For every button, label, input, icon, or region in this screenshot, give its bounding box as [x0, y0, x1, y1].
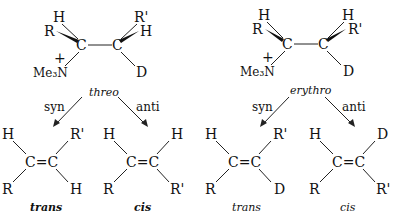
bond: [216, 141, 229, 154]
top-left-atom: H: [2, 126, 14, 142]
bond: [363, 169, 375, 182]
c2-bottom-atom: D: [343, 63, 354, 79]
syn-label: syn: [252, 100, 273, 114]
threo-panel: H R C C R' H + Me₃N D threo syn anti H R…: [2, 9, 184, 214]
c2-wedge-bond: [326, 29, 346, 42]
top-right-atom: R': [273, 126, 287, 142]
syn-arrowhead: [260, 119, 267, 127]
product-name: trans: [30, 201, 62, 214]
bond: [13, 169, 26, 182]
double-bond-label: C=C: [126, 154, 159, 170]
c1-wedge-atom: R: [252, 21, 263, 37]
amine-label: Me₃N: [240, 65, 275, 79]
c2-d-bond: [327, 51, 341, 65]
syn-label: syn: [44, 100, 65, 114]
bond: [320, 169, 333, 182]
c1-wedge-atom: R: [44, 23, 55, 39]
product-name: trans: [232, 201, 261, 214]
amine-label: Me₃N: [33, 66, 68, 80]
elimination-diagram: H R C C R' H + Me₃N D threo syn anti H R…: [0, 0, 393, 215]
double-bond-label: C=C: [228, 154, 261, 170]
charge-plus: +: [262, 49, 274, 65]
erythro-trans-product: H R' R D C=C trans: [205, 126, 287, 214]
anti-label: anti: [342, 100, 366, 114]
c1-top-atom: H: [53, 9, 65, 25]
erythro-panel: H R C C H R' + Me₃N D erythro syn anti H…: [205, 7, 390, 214]
c2-d-bond: [121, 52, 135, 66]
bond: [56, 141, 68, 154]
threo-trans-product: H R' R H C=C trans: [2, 126, 84, 214]
charge-plus: +: [54, 50, 66, 66]
erythro-reactant: H R C C H R' + Me₃N D: [240, 7, 362, 79]
bottom-left-atom: R: [205, 181, 216, 197]
bottom-right-atom: H: [70, 181, 82, 197]
top-right-atom: H: [171, 126, 183, 142]
threo-cis-product: H H R R' C=C cis: [103, 126, 184, 214]
anti-label: anti: [136, 100, 160, 114]
bottom-left-atom: R: [103, 181, 114, 197]
c2-bottom-atom: D: [136, 64, 147, 80]
c2-atom: C: [318, 36, 329, 52]
bottom-left-atom: R: [2, 181, 13, 197]
bond: [320, 141, 333, 154]
bond: [259, 141, 271, 154]
c2-wedge-atom: R': [348, 21, 362, 37]
threo-reactant: H R C C R' H + Me₃N D: [33, 9, 152, 80]
top-left-atom: H: [205, 126, 217, 142]
bond: [157, 141, 169, 154]
bottom-right-atom: R': [376, 181, 390, 197]
product-name: cis: [134, 201, 151, 214]
bottom-left-atom: R: [309, 181, 320, 197]
anti-arrowhead: [348, 119, 355, 127]
c2-wedge-atom: H: [140, 23, 152, 39]
syn-arrowhead: [53, 119, 60, 127]
c1-atom: C: [76, 37, 87, 53]
double-bond-label: C=C: [25, 154, 58, 170]
bottom-right-atom: R': [170, 181, 184, 197]
bond: [259, 169, 271, 182]
bottom-right-atom: D: [274, 181, 285, 197]
bond: [114, 141, 127, 154]
c1-atom: C: [282, 36, 293, 52]
top-left-atom: H: [103, 126, 115, 142]
anti-arrowhead: [141, 119, 148, 127]
erythro-cis-product: H D R R' C=C cis: [309, 126, 390, 214]
double-bond-label: C=C: [332, 154, 365, 170]
bond: [56, 169, 68, 182]
bond: [363, 141, 375, 154]
bond: [216, 169, 229, 182]
top-right-atom: R': [70, 126, 84, 142]
product-name: cis: [340, 201, 356, 214]
top-left-atom: H: [309, 126, 321, 142]
bond: [13, 141, 26, 154]
erythro-label: erythro: [290, 84, 332, 97]
bond: [114, 169, 127, 182]
top-right-atom: D: [377, 126, 388, 142]
threo-label: threo: [89, 86, 119, 99]
bond: [157, 169, 169, 182]
c1-n-bond: [65, 52, 79, 66]
